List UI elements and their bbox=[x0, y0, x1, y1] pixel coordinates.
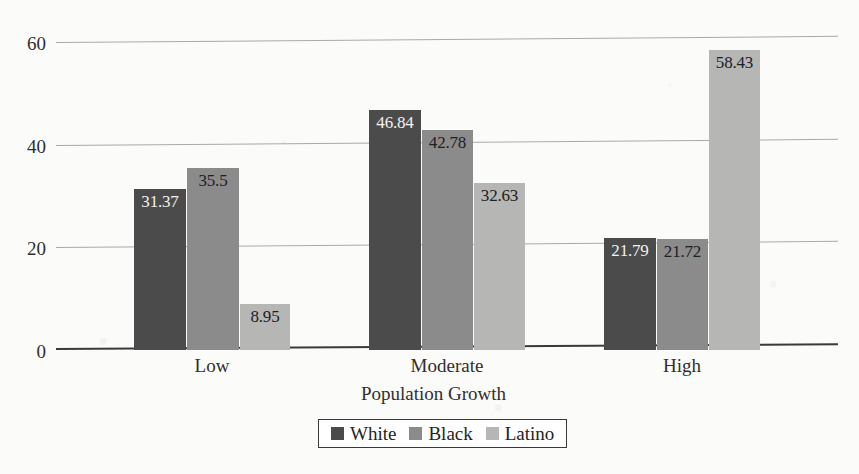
bar-value: 35.5 bbox=[187, 171, 239, 191]
legend-label-white: White bbox=[350, 424, 396, 443]
bar-moderate-black[interactable]: 42.78 bbox=[422, 130, 473, 350]
x-label-high: High bbox=[632, 354, 732, 378]
bar-high-white[interactable]: 21.79 bbox=[604, 238, 656, 350]
x-axis-category-labels: Low Moderate High bbox=[56, 354, 838, 380]
bar-low-latino[interactable]: 8.95 bbox=[240, 304, 290, 350]
plot-area: 31.37 35.5 8.95 46.84 42.78 32.63 21.79 … bbox=[56, 42, 838, 350]
bar-value: 42.78 bbox=[422, 133, 473, 153]
bar-value: 58.43 bbox=[709, 53, 760, 73]
legend-swatch-icon bbox=[409, 427, 422, 440]
bar-value: 8.95 bbox=[240, 307, 290, 327]
legend-entry-latino[interactable]: Latino bbox=[486, 424, 555, 443]
x-label-moderate: Moderate bbox=[397, 354, 497, 378]
bar-value: 21.79 bbox=[604, 241, 656, 261]
bar-low-white[interactable]: 31.37 bbox=[134, 189, 186, 350]
bar-value: 46.84 bbox=[369, 113, 421, 133]
y-tick-60: 60 bbox=[2, 34, 46, 53]
x-axis-title-text: Population Growth bbox=[361, 383, 506, 405]
x-axis-title: Population Growth bbox=[0, 383, 859, 405]
y-tick-40: 40 bbox=[2, 137, 46, 156]
bar-high-black[interactable]: 21.72 bbox=[657, 239, 708, 351]
bar-value: 32.63 bbox=[474, 186, 525, 206]
gridline-60 bbox=[56, 36, 838, 43]
y-tick-0: 0 bbox=[2, 342, 46, 361]
bar-low-black[interactable]: 35.5 bbox=[187, 168, 239, 350]
legend-entry-white[interactable]: White bbox=[331, 424, 396, 443]
chart-page: 60 40 20 0 31.37 35.5 8.95 46.84 42.78 3… bbox=[0, 0, 859, 474]
y-tick-20: 20 bbox=[2, 239, 46, 258]
legend-swatch-icon bbox=[486, 427, 499, 440]
y-axis-tick-labels: 60 40 20 0 bbox=[0, 42, 46, 350]
legend-label-black: Black bbox=[428, 424, 472, 443]
legend-swatch-icon bbox=[331, 427, 344, 440]
legend-label-latino: Latino bbox=[505, 424, 555, 443]
bar-high-latino[interactable]: 58.43 bbox=[709, 50, 760, 350]
bar-moderate-white[interactable]: 46.84 bbox=[369, 110, 421, 350]
x-label-low: Low bbox=[162, 354, 262, 378]
chart-legend: White Black Latino bbox=[318, 419, 567, 448]
bar-value: 21.72 bbox=[657, 242, 708, 262]
bar-moderate-latino[interactable]: 32.63 bbox=[474, 183, 525, 351]
legend-entry-black[interactable]: Black bbox=[409, 424, 472, 443]
bar-value: 31.37 bbox=[134, 192, 186, 212]
